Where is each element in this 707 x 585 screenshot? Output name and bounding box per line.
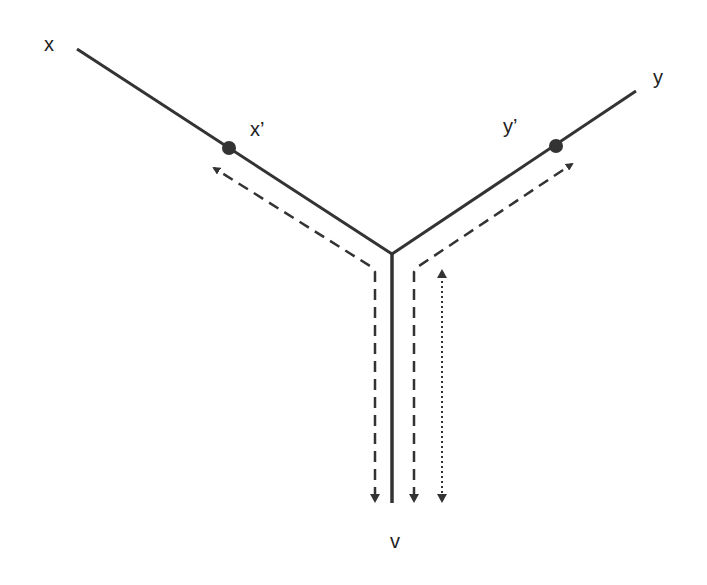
dashed-arrow-v-to-x-prime [214, 168, 375, 498]
dotted-arrow-up-head [437, 269, 447, 278]
dashed-arrow-left-down-head [370, 494, 380, 503]
label-y-prime: y’ [503, 116, 517, 136]
label-x-prime: x’ [250, 119, 264, 139]
dashed-arrow-y-prime-to-v [414, 164, 572, 498]
label-v: v [390, 531, 400, 551]
label-y: y [653, 67, 663, 87]
dashed-arrow-right-down-head [409, 494, 419, 503]
dotted-arrow-down-head [437, 494, 447, 503]
y-prime-dot [549, 139, 563, 153]
label-x: x [44, 34, 54, 54]
tree-diagram [0, 0, 707, 585]
x-prime-dot [222, 141, 236, 155]
